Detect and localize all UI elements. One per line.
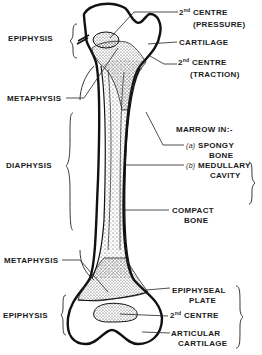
secondary-centre-pressure	[93, 32, 119, 48]
brace-epiphysis-right	[236, 286, 243, 348]
label-spongy-bone-2: BONE	[209, 151, 233, 160]
label-2nd-centre-traction: 2nd CENTRE	[178, 58, 227, 67]
label-metaphysis-top: METAPHYSIS	[7, 94, 61, 103]
label-cartilage: CARTILAGE	[179, 38, 228, 47]
label-traction: (TRACTION)	[190, 70, 240, 79]
label-2nd-centre-pressure: 2nd CENTRE	[179, 8, 228, 17]
label-epiphyseal-plate-2: PLATE	[189, 296, 216, 305]
label-2nd-centre-bottom: 2nd CENTRE	[170, 311, 219, 320]
label-diaphysis: DIAPHYSIS	[6, 161, 52, 170]
label-compact-bone: COMPACT	[172, 206, 214, 215]
brace-diaphysis	[66, 113, 73, 230]
label-metaphysis-bottom: METAPHYSIS	[4, 256, 58, 265]
secondary-centre-lower	[94, 303, 138, 322]
label-epiphysis-top: EPIPHYSIS	[8, 34, 53, 43]
label-epiphysis-bottom: EPIPHYSIS	[3, 311, 48, 320]
label-compact-bone-2: BONE	[184, 216, 208, 225]
label-marrow-heading: MARROW IN:-	[176, 125, 233, 134]
label-pressure: (PRESSURE)	[193, 20, 245, 29]
label-spongy-bone: (a) SPONGY	[186, 141, 234, 150]
label-medullary-cavity: (b) MEDULLARY	[186, 161, 251, 170]
brace-epiphysis-top	[70, 24, 77, 58]
label-articular-cartilage: ARTICULAR	[171, 329, 220, 338]
label-medullary-cavity-2: CAVITY	[210, 171, 241, 180]
label-articular-cartilage-2: CARTILAGE	[178, 339, 227, 348]
brace-epiphysis-bottom	[61, 295, 66, 335]
label-epiphyseal-plate: EPIPHYSEAL	[172, 286, 226, 295]
